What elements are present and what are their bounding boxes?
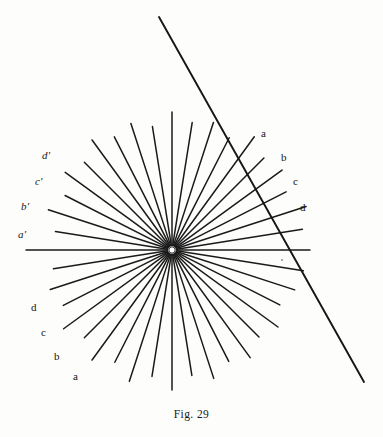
ray-342 [176,251,294,289]
oblique-line [159,17,364,382]
ray-label-right-c: c [293,176,298,187]
ray-315 [175,253,259,337]
ray-label-left-upper-c-prime: c′ [35,176,43,187]
center-dot [171,249,173,251]
ray-297 [174,254,229,361]
ray-108 [131,124,171,246]
scan-speck [281,259,283,261]
ray-18 [176,206,306,248]
ray-225 [84,253,168,337]
ray-label-left-upper-a-prime: a′ [18,229,26,240]
ray-label-right-b: b [281,152,287,163]
ray-label-left-lower-c: c [41,327,46,338]
ray-27 [176,192,286,248]
ray-label-left-lower-a: a [73,371,78,382]
ray-label-left-lower-b: b [54,351,60,362]
figure-caption: Fig. 29 [0,408,383,420]
ray-label-left-lower-d: d [31,302,37,313]
rays-group [26,112,310,390]
ray-45 [175,158,264,247]
ray-135 [84,162,168,246]
ray-label-right-a: a [261,128,266,139]
ray-label-left-upper-b-prime: b′ [21,201,29,212]
ray-72 [173,123,213,246]
ray-333 [176,252,280,305]
ray-label-left-upper-d-prime: d′ [42,150,50,161]
starburst-diagram [0,0,383,437]
ray-252 [129,254,170,381]
ray-63 [174,138,229,246]
ray-162 [48,210,167,249]
ray-198 [50,251,167,289]
ray-207 [63,252,168,305]
ray-153 [65,196,168,248]
figure-page: a b c d d′ c′ b′ a′ d c b a Fig. 29 [0,0,383,437]
ray-117 [114,137,170,246]
ray-243 [115,254,170,362]
ray-288 [173,254,213,378]
ray-label-right-d: d [300,202,306,213]
